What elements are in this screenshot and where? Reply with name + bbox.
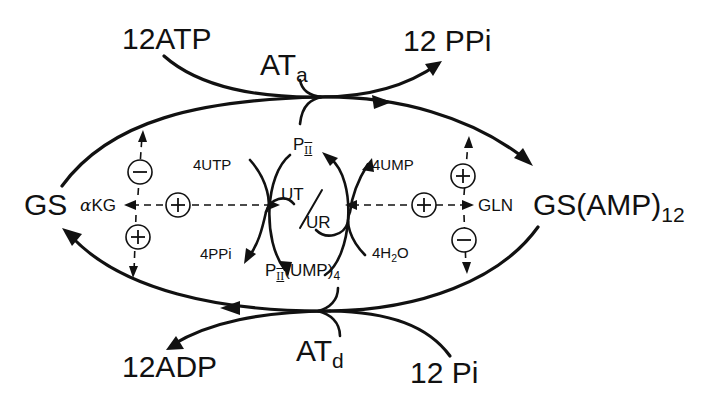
at-d-main: AT: [296, 334, 332, 367]
pii-main: P: [293, 135, 304, 154]
label-12atp: 12ATP: [122, 24, 212, 54]
arrowhead-gln-up: [464, 136, 473, 148]
label-4ppi: 4PPi: [200, 246, 232, 261]
at-d-sub: d: [332, 349, 344, 372]
label-akg: αKG: [80, 197, 116, 214]
gs-amp-main: GS(AMP): [533, 188, 661, 221]
label-gs-amp12: GS(AMP)12: [533, 190, 685, 220]
minus-circle-akg-top: [128, 160, 152, 184]
label-gs: GS: [24, 190, 67, 220]
label-ut: UT: [281, 186, 304, 203]
pii-ump-rest: (UMP): [284, 261, 333, 280]
ppi-output-arrow: [320, 64, 438, 97]
plus-circle-gln-horizontal: [412, 193, 436, 217]
label-pii-ump4: PII(UMP)4: [265, 262, 340, 279]
ut-cycle-arc: [269, 155, 290, 270]
arrowhead-gln: [462, 200, 474, 210]
arrowhead-top-mid: [372, 95, 392, 109]
label-12ppi: 12 PPi: [403, 26, 491, 56]
arrowhead-gln-down: [462, 262, 471, 274]
akg-rest: KG: [91, 196, 116, 215]
at-a-main: AT: [260, 48, 296, 81]
pi-input-arrow: [330, 311, 450, 356]
at-a-sub: a: [296, 63, 308, 86]
gs-amp-sub: 12: [661, 203, 684, 226]
utp-branch: [248, 160, 269, 258]
label-12adp: 12ADP: [122, 352, 217, 382]
label-ur: UR: [306, 214, 331, 231]
minus-circle-gln-bottom: [452, 228, 476, 252]
label-4h2o: 4H2O: [372, 245, 409, 260]
label-12pi: 12 Pi: [410, 358, 478, 388]
plus-circle-akg-bottom: [126, 225, 150, 249]
pii-sub: II: [304, 143, 312, 157]
arrowhead-akg-up: [138, 130, 147, 142]
h2o-post: O: [397, 244, 409, 261]
arrowhead-ppi: [425, 61, 442, 76]
arrowhead-gsamp: [514, 148, 533, 166]
label-4ump: 4UMP: [372, 157, 414, 172]
at-a-hook: [300, 80, 322, 124]
label-4utp: 4UTP: [193, 157, 231, 172]
h2o-pre: 4H: [372, 244, 391, 261]
arrowhead-akg: [124, 200, 136, 210]
akg-alpha: α: [80, 195, 91, 215]
gs-regulation-diagram: 12ATP ATa 12 PPi GS αKG GLN GS(AMP)12 PI…: [0, 0, 723, 400]
h2o-sub: 2: [391, 252, 397, 264]
plus-circle-akg-horizontal: [166, 193, 190, 217]
h2o-branch: [348, 164, 368, 255]
pii-ump-sub2: 4: [333, 269, 340, 283]
pii-ump-sub: II: [276, 269, 284, 283]
label-pii: PII: [293, 136, 312, 153]
plus-circle-gln-top: [451, 164, 475, 188]
label-at-d: ATd: [296, 336, 344, 366]
label-at-a: ATa: [260, 50, 308, 80]
label-gln: GLN: [478, 197, 513, 214]
pii-ump-main: P: [265, 261, 276, 280]
